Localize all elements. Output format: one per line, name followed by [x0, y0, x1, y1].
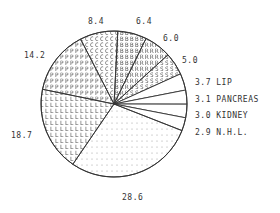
slice-label: 3.0 KIDNEY — [195, 111, 248, 120]
slice-label: 28.6 — [122, 193, 143, 202]
slice-label: 2.9 N.H.L. — [195, 128, 248, 137]
slice-label: 3.1 PANCREAS — [195, 95, 259, 104]
slice-label: 14.2 — [24, 51, 45, 60]
slice-label: 6.0 — [163, 34, 179, 43]
slice-label: 5.0 — [182, 56, 198, 65]
pie-slices — [41, 31, 187, 177]
slice-label: 6.4 — [136, 17, 152, 26]
slice-label: 18.7 — [11, 131, 32, 140]
slice-label: 8.4 — [88, 17, 104, 26]
slice-label: 3.7 LIP — [195, 78, 232, 87]
pie-chart: B R S L P C — [0, 0, 280, 213]
